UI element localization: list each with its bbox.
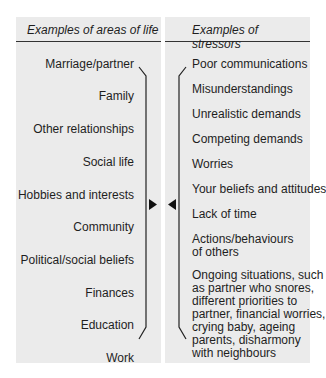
arrow-left-icon [168, 199, 176, 210]
right-bracket-icon [179, 67, 186, 339]
arrow-right-icon [149, 199, 157, 210]
left-bracket-icon [139, 67, 146, 339]
